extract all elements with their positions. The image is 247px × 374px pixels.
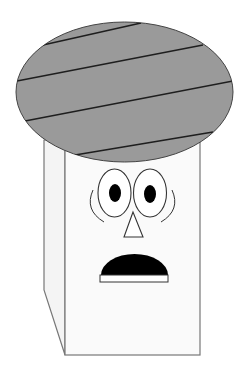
hat-ellipse [16, 22, 233, 162]
mouth-teeth-strip [100, 275, 168, 282]
cartoon-illustration [0, 0, 247, 374]
right-pupil [144, 185, 156, 203]
box-front-face [65, 140, 200, 355]
box-side-panel [44, 140, 65, 355]
left-pupil [109, 184, 121, 202]
illustration-canvas [0, 0, 247, 374]
striped-hat [16, 22, 233, 162]
